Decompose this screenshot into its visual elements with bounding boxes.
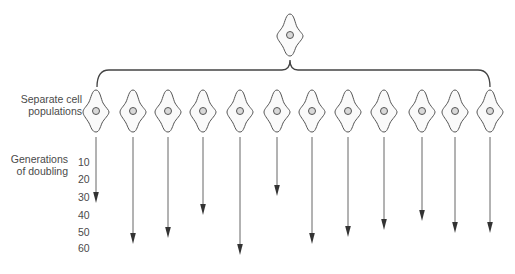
nucleus (287, 32, 294, 39)
arrowhead-icon (237, 244, 243, 255)
arrowhead-icon (487, 222, 493, 233)
nucleus (309, 108, 316, 115)
arrowhead-icon (419, 210, 425, 221)
nucleus (165, 108, 172, 115)
arrowhead-icon (381, 219, 387, 230)
nucleus (200, 108, 207, 115)
arrowhead-icon (345, 226, 351, 237)
arrowhead-icon (274, 185, 280, 196)
nucleus (381, 108, 388, 115)
nucleus (487, 108, 494, 115)
nucleus (93, 108, 100, 115)
nucleus (130, 108, 137, 115)
cell-lineage-diagram (0, 0, 515, 274)
arrowhead-icon (452, 222, 458, 233)
arrowhead-icon (200, 204, 206, 215)
nucleus (345, 108, 352, 115)
arrowhead-icon (165, 227, 171, 238)
nucleus (452, 108, 459, 115)
arrowhead-icon (130, 233, 136, 244)
bracket (97, 60, 490, 87)
arrowhead-icon (309, 233, 315, 244)
nucleus (237, 108, 244, 115)
arrowhead-icon (93, 192, 99, 203)
nucleus (274, 108, 281, 115)
nucleus (419, 108, 426, 115)
